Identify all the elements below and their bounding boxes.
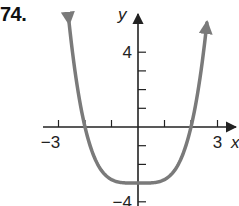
y-tick-label: 4	[123, 43, 132, 62]
x-tick-label: −3	[41, 133, 60, 152]
x-tick-label: 3	[213, 133, 222, 152]
graph: 3−34−4xy	[0, 0, 239, 206]
y-tick-label: −4	[113, 193, 132, 206]
y-axis-label: y	[117, 5, 128, 24]
x-axis-label: x	[230, 133, 239, 152]
